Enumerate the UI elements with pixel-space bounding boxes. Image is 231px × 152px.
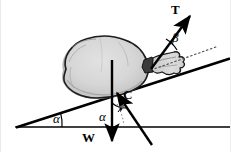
- sack-neck: [152, 52, 184, 75]
- force-c-label: C: [123, 88, 132, 101]
- alpha-incline-arc: [61, 112, 63, 127]
- alpha-incline-label: α: [53, 112, 60, 125]
- diagram-canvas: [0, 0, 231, 152]
- beta-label: β: [172, 31, 178, 44]
- weight-label: W: [82, 131, 95, 144]
- physics-diagram-figure: T β C W α α: [0, 0, 231, 152]
- alpha-force-label: α: [99, 110, 106, 123]
- tension-label: T: [171, 3, 180, 16]
